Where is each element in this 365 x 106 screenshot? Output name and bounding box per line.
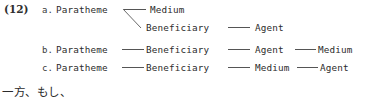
- node-b-paratheme: Paratheme: [56, 44, 108, 55]
- node-c-medium: Medium: [255, 62, 289, 73]
- connector-c-3: [297, 67, 318, 68]
- connector-a-paratheme-medium: [124, 9, 146, 10]
- node-b-beneficiary: Beneficiary: [146, 44, 209, 55]
- node-c-paratheme: Paratheme: [56, 62, 108, 73]
- connector-b-1: [122, 49, 144, 50]
- connector-a-beneficiary-agent: [228, 27, 250, 28]
- node-a-agent: Agent: [255, 22, 284, 33]
- connector-c-2: [228, 67, 250, 68]
- body-text-line: 一方、もし、: [2, 83, 71, 99]
- node-c-beneficiary: Beneficiary: [146, 62, 209, 73]
- node-b-medium: Medium: [318, 44, 352, 55]
- node-a-paratheme: Paratheme: [56, 4, 108, 15]
- node-a-medium: Medium: [150, 4, 184, 15]
- node-b-agent: Agent: [255, 44, 284, 55]
- connector-b-2: [228, 49, 250, 50]
- diagonal-branch-line: [123, 9, 141, 28]
- node-a-beneficiary: Beneficiary: [146, 22, 209, 33]
- connector-b-3: [295, 49, 316, 50]
- example-number-label: (12): [4, 3, 29, 15]
- example-item-letter-b: b.: [42, 45, 53, 55]
- node-c-agent: Agent: [320, 62, 349, 73]
- numbered-example-block: (12) a. Paratheme Medium Beneficiary Age…: [0, 0, 365, 80]
- connector-c-1: [122, 67, 144, 68]
- example-item-letter-c: c.: [42, 63, 53, 73]
- example-item-letter-a: a.: [42, 5, 53, 15]
